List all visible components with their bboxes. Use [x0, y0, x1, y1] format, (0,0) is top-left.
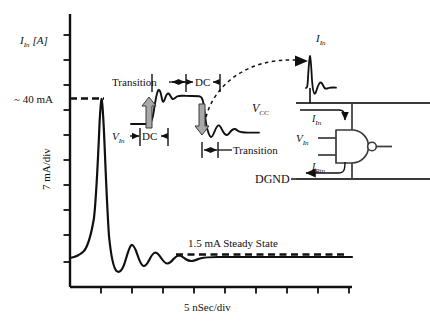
nand-inversion-bubble [368, 142, 377, 151]
dgnd-label: DGND [255, 172, 290, 186]
dc-top-label: DC [195, 76, 210, 88]
dc-bottom-label: DC [142, 130, 157, 142]
current-waveform-figure: IIn[A] ~ 40 mA 7 mA/div 5 nSec/div 1.5 m… [0, 0, 430, 323]
y-div-label: 7 mA/div [40, 148, 52, 190]
x-div-label: 5 nSec/div [184, 301, 231, 313]
nand-gate-body [336, 130, 369, 163]
transition-label-right: Transition [233, 144, 278, 156]
y-marker-label: ~ 40 mA [14, 93, 53, 105]
y-axis-label-unit: [A] [33, 34, 48, 46]
figure-background [0, 0, 430, 323]
y-axis-label-sub: In [23, 41, 30, 49]
steady-state-label: 1.5 mA Steady State [188, 237, 278, 249]
transition-label-left: Transition [112, 76, 157, 88]
